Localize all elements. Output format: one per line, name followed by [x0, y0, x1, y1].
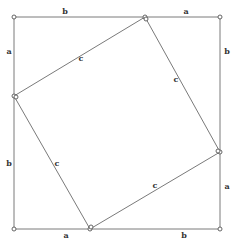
label-right-upper-segment: b	[224, 46, 230, 56]
label-bottom-left-segment: a	[63, 230, 68, 240]
vertex-outer-top-left	[12, 15, 16, 19]
hypotenuse-labels: c c c c	[55, 53, 179, 190]
vertex-inner-left-b	[14, 95, 18, 99]
label-left-upper-segment: a	[6, 46, 11, 56]
label-inner-top-left-side: c	[79, 53, 84, 63]
outer-square	[14, 17, 220, 229]
pythagorean-diagram: b a a b b a a b c c c c	[0, 0, 234, 252]
outer-labels: b a a b b a a b	[6, 6, 230, 240]
label-top-left-segment: b	[62, 6, 68, 16]
vertex-inner-bottom-b	[89, 225, 93, 229]
inner-bottom-left-side	[14, 96, 90, 229]
label-inner-bottom-right-side: c	[153, 180, 158, 190]
vertices	[12, 15, 222, 231]
vertex-outer-bottom-left	[12, 227, 16, 231]
inner-square	[14, 17, 220, 229]
vertex-inner-right-b	[216, 149, 220, 153]
label-right-lower-segment: a	[224, 181, 229, 191]
vertex-outer-top-right	[218, 15, 222, 19]
vertex-inner-top-b	[144, 17, 148, 21]
label-inner-top-right-side: c	[174, 74, 179, 84]
label-bottom-right-segment: b	[181, 230, 187, 240]
label-left-lower-segment: b	[6, 158, 12, 168]
inner-top-right-side	[145, 17, 220, 152]
label-inner-bottom-left-side: c	[55, 158, 60, 168]
inner-bottom-right-side	[90, 152, 220, 229]
vertex-outer-bottom-right	[218, 227, 222, 231]
label-top-right-segment: a	[183, 6, 188, 16]
